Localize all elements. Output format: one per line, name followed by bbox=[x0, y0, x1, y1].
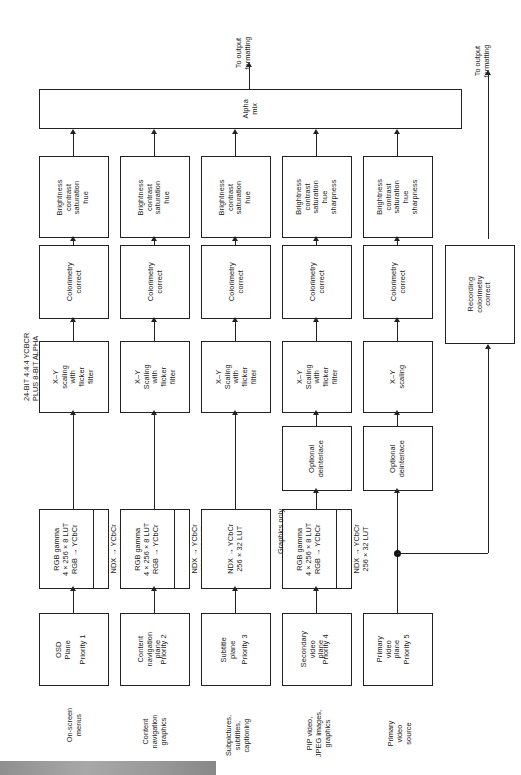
col2-priority-label: Priority 2 bbox=[160, 634, 169, 664]
col3-lut-block[interactable]: NDX → YCbCr256 × 32 LUT bbox=[201, 509, 271, 589]
col2-source-caption: Content navigation graphics bbox=[141, 702, 168, 762]
col3-plane-block[interactable]: Subtitleplane Priority 3 bbox=[201, 613, 271, 686]
alpha-mix-label: Alpha mix bbox=[242, 99, 259, 118]
col4-scaling-line bbox=[316, 320, 317, 341]
col4-lut-to-deinterlace-arrow bbox=[313, 488, 319, 493]
col1-scaling-label: X–Yscaling withflicker filter bbox=[52, 365, 96, 389]
col4-adjust-to-mix-arrow bbox=[313, 129, 319, 134]
col5-deinterlace-to-scaling-arrow bbox=[394, 410, 400, 415]
col3-image-adjust-block[interactable]: Brightnesscontrast saturationhue bbox=[201, 156, 271, 238]
col2-scaling-arrow bbox=[151, 317, 157, 322]
col4-image-adjust-block[interactable]: Brightnesscontrast saturationhue sharpne… bbox=[282, 156, 352, 238]
bus-label: 24-BIT 4:4:4 YCBCR PLUS 8-BIT ALPHA bbox=[22, 313, 40, 401]
col1-scaling-block[interactable]: X–Yscaling withflicker filter bbox=[39, 341, 109, 413]
col2-lut-block[interactable]: RGB gamma4 × 256 × 8 LUT RGB → YCbCr NDX… bbox=[120, 509, 190, 589]
col1-adjust-label: Brightnesscontrast saturationhue bbox=[57, 179, 92, 215]
col4-source-caption: PIP video, JPEG images, graphics bbox=[305, 702, 332, 766]
col1-plane-label: OSDPlane bbox=[55, 640, 72, 659]
col1-scaling-arrow bbox=[70, 317, 76, 322]
col5-adjust-to-mix-line bbox=[397, 133, 398, 156]
col3-lut-to-scaling-arrow bbox=[232, 410, 238, 415]
col1-colorimetry-arrow bbox=[70, 236, 76, 241]
col1-scaling-line bbox=[73, 320, 74, 341]
col1-adjust-to-mix-arrow bbox=[70, 129, 76, 134]
output-record-line1: To output bbox=[473, 31, 482, 91]
col4-priority-label: Priority 4 bbox=[322, 634, 331, 664]
col1-plane-to-lut-line bbox=[73, 589, 74, 613]
col3-lut-ndx-label: NDX → YCbCr256 × 32 LUT bbox=[227, 524, 244, 574]
col3-adjust-to-mix-arrow bbox=[232, 129, 238, 134]
col5-plane-label: Primaryvideo plane bbox=[376, 636, 402, 662]
col2-image-adjust-block[interactable]: Brightnesscontrast saturationhue bbox=[120, 156, 190, 238]
col4-colorimetry-block[interactable]: Colorimetrycorrect bbox=[282, 245, 352, 319]
col2-adjust-label: Brightnesscontrast saturationhue bbox=[138, 179, 173, 215]
col3-plane-to-lut-arrow bbox=[232, 586, 238, 591]
col5-adjust-label: Brightnesscontrast saturationhue sharpne… bbox=[376, 179, 420, 215]
col1-colorimetry-label: Colorimetrycorrect bbox=[65, 263, 82, 302]
col2-plane-to-lut-line bbox=[154, 589, 155, 613]
col4-lut-rgb-cell: RGB gamma4 × 256 × 8 LUT RGB → YCbCr bbox=[283, 510, 336, 588]
col4-scaling-block[interactable]: X–YScaling withflicker filter bbox=[282, 341, 352, 413]
col5-deinterlace-block[interactable]: Optionaldeinterlace bbox=[363, 426, 433, 491]
col2-lut-to-scaling-arrow bbox=[151, 410, 157, 415]
col2-colorimetry-block[interactable]: Colorimetrycorrect bbox=[120, 245, 190, 319]
col2-scaling-block[interactable]: X–YScaling withflicker filter bbox=[120, 341, 190, 413]
col2-plane-block[interactable]: Contentnavigation plane Priority 2 bbox=[120, 613, 190, 686]
col4-lut-rgb-label: RGB gamma4 × 256 × 8 LUT RGB → YCbCr bbox=[296, 522, 323, 575]
col3-adjust-label: Brightnesscontrast saturationhue bbox=[219, 179, 254, 215]
col4-deinterlace-block[interactable]: Optionaldeinterlace bbox=[282, 426, 352, 491]
col1-source-caption: On-screen menus bbox=[65, 695, 83, 755]
col1-lut-rgb-cell: RGB gamma4 × 256 × 8 LUT RGB → YCbCr bbox=[40, 510, 93, 588]
output-record-line2: formatting bbox=[482, 31, 491, 91]
output-main-line2: formatting bbox=[243, 23, 252, 83]
col5-colorimetry-arrow bbox=[394, 236, 400, 241]
col3-scaling-line bbox=[235, 320, 236, 341]
col5-image-adjust-block[interactable]: Brightnesscontrast saturationhue sharpne… bbox=[363, 156, 433, 238]
col4-lut-ndx-label: NDX → YCbCr256 × 32 LUT bbox=[353, 524, 371, 573]
col1-plane-to-lut-arrow bbox=[70, 586, 76, 591]
col4-adjust-to-mix-line bbox=[316, 133, 317, 156]
col5-scaling-block[interactable]: X–Yscaling bbox=[363, 341, 433, 413]
col3-colorimetry-block[interactable]: Colorimetrycorrect bbox=[201, 245, 271, 319]
col5-colorimetry-label: Colorimetrycorrect bbox=[389, 263, 406, 302]
col3-plane-label: Subtitleplane bbox=[220, 637, 237, 662]
col2-plane-to-lut-arrow bbox=[151, 586, 157, 591]
col3-source-caption: Subpictures, subtitles, captioning bbox=[224, 704, 251, 768]
bus-label-line1: 24-BIT 4:4:4 YCBCR bbox=[22, 313, 31, 401]
col5-scaling-arrow bbox=[394, 317, 400, 322]
col5-plane-block[interactable]: Primaryvideo plane Priority 5 bbox=[363, 613, 433, 686]
col2-adjust-to-mix-arrow bbox=[151, 129, 157, 134]
col1-lut-rgb-label: RGB gamma4 × 256 × 8 LUT RGB → YCbCr bbox=[53, 522, 80, 575]
col4-lut-to-deinterlace-line bbox=[316, 491, 317, 509]
col3-priority-label: Priority 3 bbox=[241, 634, 250, 664]
col2-scaling-line bbox=[154, 320, 155, 341]
col5-deinterlace-label: Optionaldeinterlace bbox=[389, 440, 406, 477]
col5-adjust-to-mix-arrow bbox=[394, 129, 400, 134]
col3-colorimetry-arrow bbox=[232, 236, 238, 241]
col4-scaling-arrow bbox=[313, 317, 319, 322]
recording-colorimetry-label: Recording colorimetry correct bbox=[467, 276, 493, 313]
col1-lut-to-scaling-arrow bbox=[70, 410, 76, 415]
alpha-mix-block[interactable]: Alpha mix bbox=[39, 89, 462, 129]
col1-plane-block[interactable]: OSDPlane Priority 1 bbox=[39, 613, 109, 686]
col4-colorimetry-label: Colorimetrycorrect bbox=[308, 263, 325, 302]
col1-lut-to-scaling-line bbox=[73, 413, 74, 509]
recording-colorimetry-block[interactable]: Recording colorimetry correct bbox=[445, 245, 515, 344]
col1-colorimetry-block[interactable]: Colorimetrycorrect bbox=[39, 245, 109, 319]
col5-plane-to-deinterlace-arrow bbox=[394, 488, 400, 493]
col1-lut-block[interactable]: RGB gamma4 × 256 × 8 LUT RGB → YCbCr NDX… bbox=[39, 509, 109, 589]
col3-scaling-label: X–YScaling withflicker filter bbox=[214, 365, 258, 390]
col4-plane-block[interactable]: Secondaryvideo plane Priority 4 bbox=[282, 613, 352, 686]
alpha-mix-output-arrowhead bbox=[246, 62, 252, 67]
recording-feed-line bbox=[488, 348, 489, 553]
col3-plane-to-lut-line bbox=[235, 589, 236, 613]
col3-scaling-block[interactable]: X–YScaling withflicker filter bbox=[201, 341, 271, 413]
col5-colorimetry-block[interactable]: Colorimetrycorrect bbox=[363, 245, 433, 319]
col2-lut-rgb-cell: RGB gamma4 × 256 × 8 LUT RGB → YCbCr bbox=[121, 510, 174, 588]
col2-lut-rgb-label: RGB gamma4 × 256 × 8 LUT RGB → YCbCr bbox=[134, 522, 161, 575]
col3-adjust-to-mix-line bbox=[235, 133, 236, 156]
col2-colorimetry-label: Colorimetrycorrect bbox=[146, 263, 163, 302]
col4-lut-block[interactable]: RGB gamma4 × 256 × 8 LUT RGB → YCbCr NDX… bbox=[282, 509, 352, 589]
col1-image-adjust-block[interactable]: Brightnesscontrast saturationhue bbox=[39, 156, 109, 238]
col4-deinterlace-label: Optionaldeinterlace bbox=[308, 440, 325, 477]
